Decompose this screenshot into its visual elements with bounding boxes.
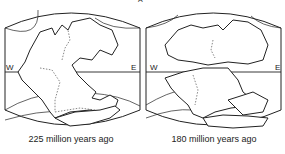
panel-caption: 180 million years ago	[143, 134, 285, 144]
east-label: E	[275, 63, 280, 72]
pangaea-map	[0, 0, 142, 134]
east-label: E	[131, 63, 136, 72]
laurasia-gondwana-map	[143, 0, 285, 134]
west-label: W	[150, 63, 158, 72]
map-panel-225mya: W E 225 million years ago	[0, 0, 142, 154]
panel-caption: 225 million years ago	[0, 134, 142, 144]
map-panel-180mya: W E 180 million years ago	[143, 0, 285, 154]
west-label: W	[6, 63, 14, 72]
